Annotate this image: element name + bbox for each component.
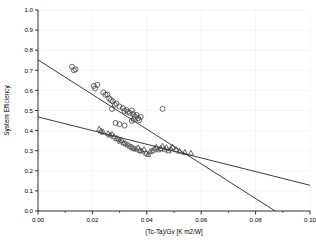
x-tick-label: 0.00 (32, 216, 45, 223)
regression-lines (38, 60, 310, 211)
y-axis-label: System Efficiency (3, 85, 11, 136)
scatter-plot: 0.00.10.20.30.40.50.60.70.80.91.0 0.000.… (0, 0, 316, 243)
x-tick-label: 0.06 (195, 216, 208, 223)
fit-line-steep-fit (38, 60, 275, 211)
y-tick-label: 0.9 (24, 26, 33, 33)
x-tick-label: 0.10 (304, 216, 316, 223)
data-point-circles (73, 67, 78, 72)
gridlines (38, 10, 310, 211)
y-tick-label: 0.5 (24, 107, 33, 114)
y-tick-label: 0.8 (24, 46, 33, 53)
series-circles (70, 64, 166, 128)
x-tick-label: 0.08 (250, 216, 263, 223)
chart-container: 0.00.10.20.30.40.50.60.70.80.91.0 0.000.… (0, 0, 316, 243)
y-tick-label: 0.6 (24, 87, 33, 94)
y-tick-label: 0.2 (24, 167, 33, 174)
y-tick-label: 0.7 (24, 67, 33, 74)
y-tick-label: 0.1 (24, 187, 33, 194)
y-tick-label: 1.0 (24, 6, 33, 13)
y-axis-ticks: 0.00.10.20.30.40.50.60.70.80.91.0 (24, 6, 38, 214)
y-tick-label: 0.4 (24, 127, 33, 134)
x-tick-label: 0.04 (141, 216, 154, 223)
data-point-circles (122, 123, 127, 128)
y-tick-label: 0.0 (24, 207, 33, 214)
y-tick-label: 0.3 (24, 147, 33, 154)
x-axis-label: (Tc-Ta)/Gv [K m2/W] (145, 228, 203, 236)
x-tick-label: 0.02 (86, 216, 99, 223)
